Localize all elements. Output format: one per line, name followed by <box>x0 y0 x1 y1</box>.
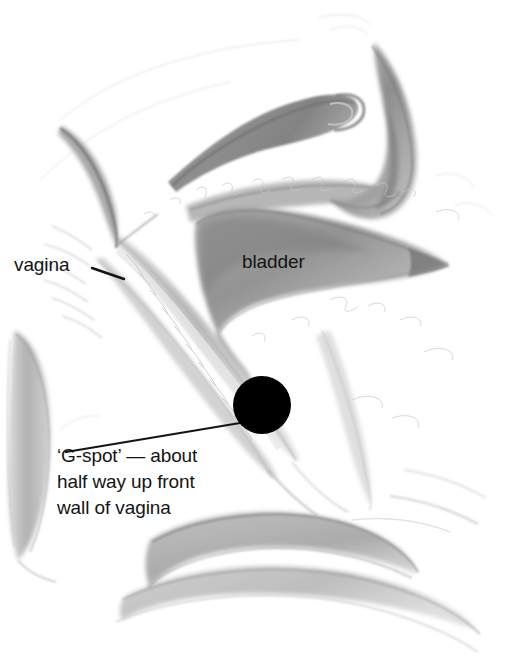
g-spot-dot <box>233 376 291 434</box>
pencil-sketch-canvas <box>0 0 507 662</box>
anatomical-figure: vagina bladder ‘G-spot’ — about half way… <box>0 0 507 662</box>
paper-background <box>0 0 507 662</box>
